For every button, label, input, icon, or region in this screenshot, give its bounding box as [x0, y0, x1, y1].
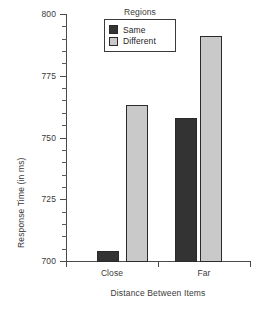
legend-item-same: Same — [109, 25, 170, 35]
bar-far-different — [200, 36, 222, 262]
legend-label-same: Same — [123, 25, 146, 35]
y-tick-minor-790 — [62, 39, 67, 40]
legend-label-different: Different — [123, 36, 156, 46]
y-tick-750 — [60, 138, 67, 139]
y-tick-800 — [60, 14, 67, 15]
x-tick-label-close: Close — [82, 268, 142, 278]
bar-close-same — [97, 251, 119, 262]
bar-far-same — [175, 118, 197, 262]
y-tick-minor-705 — [62, 249, 67, 250]
y-tick-minor-720 — [62, 212, 67, 213]
legend-box: Same Different — [104, 19, 176, 52]
y-tick-minor-765 — [62, 100, 67, 101]
y-tick-minor-785 — [62, 51, 67, 52]
y-tick-label-775: 775 — [16, 71, 56, 81]
y-tick-label-800: 800 — [16, 9, 56, 19]
legend-swatch-different-icon — [109, 37, 118, 46]
y-tick-775 — [60, 76, 67, 77]
y-tick-minor-760 — [62, 113, 67, 114]
x-tick-label-far: Far — [174, 268, 234, 278]
y-tick-minor-735 — [62, 175, 67, 176]
x-axis-title: Distance Between Items — [66, 288, 250, 298]
y-tick-minor-770 — [62, 88, 67, 89]
legend: Regions Same Different — [104, 7, 176, 52]
legend-swatch-same-icon — [109, 25, 118, 34]
bar-close-different — [126, 105, 148, 262]
y-tick-minor-745 — [62, 150, 67, 151]
y-tick-label-700: 700 — [16, 256, 56, 266]
y-tick-725 — [60, 199, 67, 200]
x-tick-right-edge — [250, 262, 251, 267]
y-tick-minor-755 — [62, 125, 67, 126]
y-tick-label-725: 725 — [16, 194, 56, 204]
y-tick-minor-730 — [62, 187, 67, 188]
x-tick-group-divider — [158, 262, 159, 267]
y-tick-minor-715 — [62, 224, 67, 225]
y-tick-label-750: 750 — [16, 133, 56, 143]
y-tick-minor-795 — [62, 26, 67, 27]
y-tick-minor-710 — [62, 236, 67, 237]
x-tick-left-edge — [66, 262, 67, 267]
bar-chart: Response Time (in ms) 800 775 750 725 70… — [0, 0, 268, 314]
legend-item-different: Different — [109, 36, 170, 46]
y-tick-minor-780 — [62, 63, 67, 64]
y-tick-minor-740 — [62, 162, 67, 163]
legend-title: Regions — [104, 7, 176, 17]
